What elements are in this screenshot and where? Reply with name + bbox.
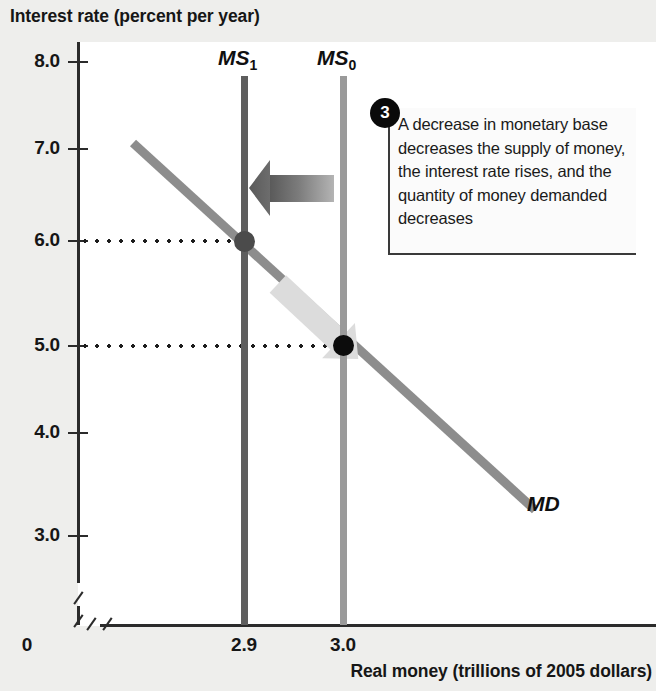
ms0-curve-label: MS0 [317,46,356,73]
guide-line-5-percent [79,344,344,348]
ms1-supply-line [241,76,248,625]
y-tick-label-7: 7.0 [14,137,60,159]
equilibrium-point-initial [333,335,354,356]
equilibrium-point-new [234,231,255,252]
callout-text: A decrease in monetary base decreases th… [398,113,630,231]
y-tick-label-6: 6.0 [14,229,60,251]
ms0-label-subscript: 0 [349,57,357,73]
x-tick-label-0: 0 [0,634,57,656]
y-tick-4 [68,432,88,434]
y-axis-title: Interest rate (percent per year) [10,6,260,27]
y-tick-8 [68,61,88,63]
x-tick-label-3-0: 3.0 [313,634,373,656]
money-market-chart-figure: Interest rate (percent per year) Real mo… [0,0,656,691]
callout-badge-3: 3 [370,98,400,128]
guide-line-6-percent [79,239,245,243]
md-curve-label: MD [527,492,560,516]
y-tick-label-5: 5.0 [14,334,60,356]
y-tick-3 [68,535,88,537]
y-tick-label-3: 3.0 [14,524,60,546]
ms1-label-subscript: 1 [250,57,258,73]
x-tick-label-2-9: 2.9 [214,634,274,656]
ms0-label-text: MS [317,46,349,69]
y-tick-label-8: 8.0 [14,50,60,72]
y-axis-line [77,42,80,583]
y-tick-label-4: 4.0 [14,421,60,443]
ms1-curve-label: MS1 [218,46,257,73]
ms1-label-text: MS [218,46,250,69]
y-tick-7 [68,148,88,150]
x-axis-line [100,624,656,627]
x-axis-title: Real money (trillions of 2005 dollars) [350,661,652,682]
